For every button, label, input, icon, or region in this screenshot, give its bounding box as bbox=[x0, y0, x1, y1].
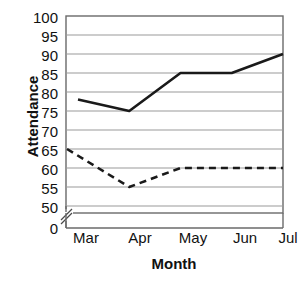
plot-frame bbox=[66, 16, 283, 213]
attendance-line-chart: Attendance Month 100 95 90 85 80 75 70 6… bbox=[0, 0, 305, 282]
plot-area bbox=[0, 0, 305, 282]
